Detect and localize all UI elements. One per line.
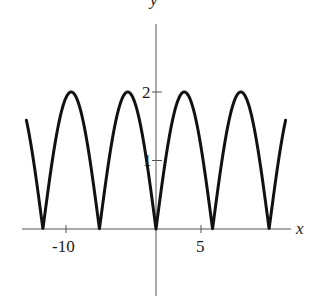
y-axis-label: y xyxy=(150,0,158,8)
y-tick-label-2: 2 xyxy=(142,84,151,101)
x-axis-label: x xyxy=(296,220,304,237)
axis-ticks xyxy=(66,92,201,233)
y-tick-label-1: 1 xyxy=(143,152,152,169)
x-tick-label-neg10: -10 xyxy=(52,238,75,255)
x-tick-label-5: 5 xyxy=(196,238,205,255)
plot-area xyxy=(0,0,326,301)
